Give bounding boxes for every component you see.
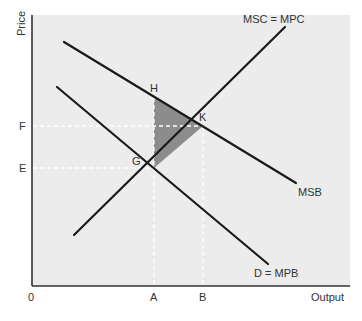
curve-label-msc-mpc: MSC = MPC <box>243 13 304 25</box>
price-label-E: E <box>19 162 26 174</box>
curve-label-msb: MSB <box>298 186 322 198</box>
point-label-G: G <box>132 155 141 167</box>
origin-label: 0 <box>28 291 34 303</box>
price-label-F: F <box>19 120 26 132</box>
point-label-K: K <box>199 111 207 123</box>
point-label-H: H <box>150 82 158 94</box>
x-axis-label: Output <box>311 291 344 303</box>
externality-diagram: Price Output 0 F E A B H K G MSC = MPC M… <box>0 0 362 321</box>
curve-label-d-mpb: D = MPB <box>254 267 298 279</box>
output-label-A: A <box>150 291 158 303</box>
output-label-B: B <box>199 291 206 303</box>
diagram-container: Price Output 0 F E A B H K G MSC = MPC M… <box>0 0 362 321</box>
y-axis-label: Price <box>15 11 27 36</box>
plot-panel <box>32 15 350 286</box>
